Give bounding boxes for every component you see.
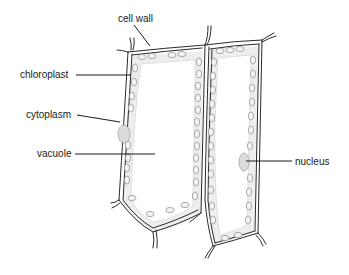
chloroplast	[196, 70, 201, 78]
chloroplast	[247, 142, 252, 150]
chloroplast	[245, 216, 250, 224]
chloroplast	[195, 94, 200, 102]
chloroplast	[208, 128, 213, 136]
right-cell	[190, 26, 276, 258]
chloroplast	[249, 98, 254, 106]
chloroplast	[248, 112, 253, 120]
chloroplast	[209, 100, 214, 108]
chloroplast	[193, 166, 198, 174]
chloroplast	[211, 58, 216, 66]
chloroplast	[194, 130, 199, 138]
chloroplast	[210, 72, 215, 80]
chloroplast	[194, 118, 199, 126]
chloroplast	[124, 176, 129, 184]
chloroplast	[236, 46, 244, 51]
leader-cytoplasm	[77, 115, 120, 122]
chloroplast	[148, 53, 156, 58]
chloroplast	[208, 156, 213, 164]
chloroplast	[194, 142, 199, 150]
chloroplast	[249, 84, 254, 92]
chloroplast	[128, 195, 136, 200]
chloroplast	[209, 114, 214, 122]
chloroplast	[146, 211, 154, 216]
chloroplast	[129, 92, 134, 100]
chloroplast	[132, 64, 137, 72]
label-chloroplast: chloroplast	[20, 69, 69, 80]
label-vacuole: vacuole	[37, 148, 72, 159]
right-cell-vacuole	[215, 55, 251, 235]
chloroplast	[246, 188, 251, 196]
chloroplast	[208, 170, 213, 178]
chloroplast	[195, 82, 200, 90]
chloroplast	[192, 192, 197, 200]
wall-junction-top-middle	[205, 26, 211, 45]
chloroplast	[248, 126, 253, 134]
chloroplast	[209, 202, 214, 210]
label-cytoplasm: cytoplasm	[26, 109, 71, 120]
chloroplast	[193, 178, 198, 186]
chloroplast	[131, 78, 136, 86]
chloroplast	[234, 232, 242, 237]
wall-junction-top-right	[262, 33, 276, 42]
chloroplast	[247, 174, 252, 182]
label-cell-wall: cell wall	[118, 13, 153, 24]
chloroplast	[196, 58, 201, 66]
chloroplast	[168, 52, 176, 57]
chloroplast	[178, 51, 186, 56]
chloroplast	[166, 207, 174, 212]
plant-cell-diagram: cell wall chloroplast cytoplasm vacuole …	[0, 0, 349, 275]
chloroplast	[246, 202, 251, 210]
chloroplast	[210, 216, 215, 224]
leader-cell-wall	[134, 25, 150, 46]
chloroplast	[210, 86, 215, 94]
chloroplast	[208, 142, 213, 150]
chloroplast	[124, 164, 129, 172]
right-cell-nucleus	[239, 153, 249, 171]
chloroplast	[216, 48, 224, 53]
chloroplast	[221, 235, 229, 240]
chloroplast	[193, 154, 198, 162]
chloroplast	[250, 56, 255, 64]
chloroplast	[138, 54, 146, 59]
chloroplast	[181, 202, 189, 207]
chloroplast	[195, 106, 200, 114]
left-cell-nucleus	[118, 125, 130, 143]
wall-junction-bottom-right	[256, 233, 266, 246]
chloroplast	[125, 154, 130, 162]
chloroplast	[250, 70, 255, 78]
chloroplast	[226, 47, 234, 52]
wall-junction-top-left	[117, 38, 134, 52]
left-cell-vacuole	[131, 60, 195, 222]
label-nucleus: nucleus	[295, 156, 329, 167]
chloroplast	[208, 186, 213, 194]
chloroplast	[128, 104, 133, 112]
